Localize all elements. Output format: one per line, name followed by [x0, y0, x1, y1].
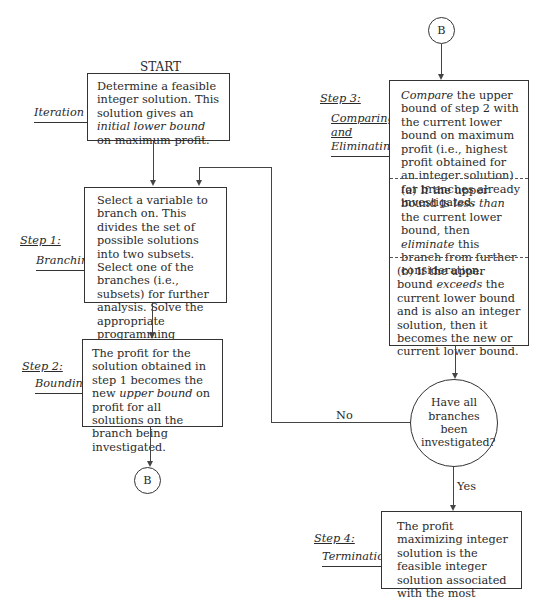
iteration0-box: Determine a feasible integer solution. T…: [87, 73, 230, 141]
decision-node: Have all branches been investigated?: [410, 379, 498, 467]
step3-case-a: (a) If the upper bound is less than the …: [390, 178, 528, 257]
flow-line: [453, 467, 454, 507]
connector-b-top: B: [428, 17, 455, 44]
arrow-icon: [150, 180, 156, 186]
flow-line: [152, 303, 153, 335]
step2-label: Step 2:: [22, 360, 63, 374]
no-label: No: [336, 409, 353, 422]
flow-line: [455, 346, 456, 375]
step2-box: The profit for the solution obtained in …: [82, 339, 223, 427]
connector-b-bottom: B: [134, 467, 161, 494]
yes-label: Yes: [457, 480, 476, 493]
start-label: START: [140, 60, 181, 74]
flow-line: [441, 44, 442, 76]
step1-box: Select a variable to branch on. This div…: [84, 187, 227, 303]
step3-case-b: (b) If the upper bound exceeds the curre…: [390, 257, 528, 365]
step1-number: Step 1:: [20, 234, 61, 250]
loop-vertical-line: [271, 167, 272, 422]
loop-top-line: [199, 167, 271, 168]
arrow-icon: [196, 180, 202, 186]
step3-name: Comparing and Eliminating: [331, 112, 397, 157]
step4-box: The profit maximizing integer solution i…: [381, 511, 522, 589]
step4-label: Step 4:: [314, 532, 355, 546]
step1-label: Step 1:: [20, 234, 61, 250]
flow-line: [150, 427, 151, 463]
flow-line: [153, 141, 154, 182]
step3-label: Step 3:: [320, 92, 361, 106]
step3-intro: Compare the upper bound of step 2 with t…: [390, 81, 528, 178]
iteration0-label: Iteration 0: [34, 106, 95, 123]
step3-box: Compare the upper bound of step 2 with t…: [389, 80, 529, 346]
